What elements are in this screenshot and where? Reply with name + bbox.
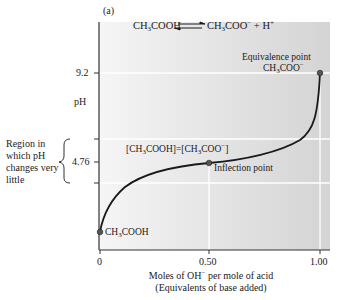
xtick-1-00: 1.00 [310, 256, 328, 267]
start-label: CH3COOH [105, 227, 149, 237]
region-label: Region in which pH changes very little [6, 138, 66, 186]
y-ticks [94, 73, 99, 183]
equivalence-species: CH3COO− [263, 63, 304, 73]
equation-reactant: CH3COOH [133, 20, 181, 31]
y-axis-label: pH [74, 96, 86, 107]
start-point [97, 229, 103, 235]
panel-label: (a) [103, 5, 114, 16]
xtick-0: 0 [97, 256, 102, 267]
ytick-9-2: 9.2 [76, 67, 89, 78]
x-axis-label: Moles of OH− per mole of acid (Equivalen… [0, 270, 342, 294]
midpoint-label: [CH3COOH]=[CH3COO−] [126, 144, 228, 154]
xtick-0-50: 0.50 [199, 256, 217, 267]
equivalence-point [317, 70, 323, 76]
x-ticks [100, 250, 320, 254]
equation-products: CH3COO− + H+ [207, 20, 274, 31]
ytick-4-76: 4.76 [72, 156, 90, 167]
inflection-label: Inflection point [214, 163, 273, 173]
inflection-point [206, 160, 212, 166]
